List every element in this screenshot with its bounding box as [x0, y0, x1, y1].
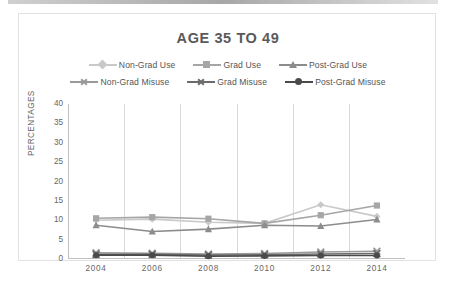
plot-inner	[68, 104, 405, 259]
legend-key-icon	[285, 76, 313, 87]
legend-item-grad-use[interactable]: Grad Use	[193, 59, 261, 70]
chart-legend: Non-Grad UseGrad UsePost-Grad Use Non-Gr…	[19, 56, 437, 90]
series-post-grad-use	[92, 216, 380, 235]
legend-label: Post-Grad Use	[309, 60, 367, 70]
x-tick-label: 2012	[301, 264, 341, 273]
y-tick-label: 5	[41, 236, 63, 244]
chart-title: AGE 35 TO 49	[19, 30, 437, 46]
legend-marker-circle	[295, 78, 302, 85]
data-point	[205, 216, 211, 222]
y-axis-title: PERCENTAGES	[27, 90, 36, 156]
data-point	[149, 214, 155, 220]
y-tick-label: 10	[41, 216, 63, 224]
series-layer	[68, 104, 405, 259]
chart-container: AGE 35 TO 49 Non-Grad UseGrad UsePost-Gr…	[18, 13, 436, 261]
data-point	[93, 215, 99, 221]
series-non-grad-use	[92, 201, 380, 227]
legend-key-icon	[193, 59, 221, 70]
legend-marker-diamond	[97, 60, 107, 70]
data-point	[205, 253, 211, 259]
legend-item-grad-misuse[interactable]: Grad Misuse	[187, 76, 267, 87]
data-point	[262, 253, 268, 259]
legend-label: Grad Misuse	[217, 77, 267, 87]
legend-key-icon	[279, 59, 307, 70]
x-tick-label: 2008	[188, 264, 228, 273]
y-tick-label: 35	[41, 119, 63, 127]
legend-row-use: Non-Grad UseGrad UsePost-Grad Use	[19, 56, 437, 73]
legend-label: Grad Use	[223, 60, 261, 70]
legend-item-non-grad-use[interactable]: Non-Grad Use	[89, 59, 176, 70]
legend-label: Non-Grad Use	[119, 60, 176, 70]
y-tick-label: 30	[41, 139, 63, 147]
legend-marker-x	[80, 78, 87, 85]
legend-key-icon	[70, 76, 98, 87]
x-tick-label: 2006	[132, 264, 172, 273]
y-tick-label: 0	[41, 255, 63, 263]
y-tick-label: 20	[41, 178, 63, 186]
legend-item-post-grad-use[interactable]: Post-Grad Use	[279, 59, 367, 70]
legend-key-icon	[187, 76, 215, 87]
y-tick-label: 40	[41, 100, 63, 108]
scan-artifact	[8, 0, 438, 4]
data-point	[318, 212, 324, 218]
legend-marker-square	[203, 61, 210, 68]
y-tick-label: 15	[41, 197, 63, 205]
legend-item-post-grad-misuse[interactable]: Post-Grad Misuse	[285, 76, 385, 87]
data-point	[93, 252, 99, 258]
legend-marker-x	[197, 78, 204, 85]
data-point	[318, 253, 324, 259]
x-tick-label: 2010	[245, 264, 285, 273]
legend-row-misuse: Non-Grad MisuseGrad MisusePost-Grad Misu…	[19, 73, 437, 90]
x-tick-label: 2014	[357, 264, 397, 273]
legend-key-icon	[89, 59, 117, 70]
series-line	[96, 255, 377, 256]
data-point	[317, 201, 324, 208]
legend-label: Non-Grad Misuse	[100, 77, 169, 87]
data-point	[374, 202, 380, 208]
y-tick-label: 25	[41, 158, 63, 166]
legend-marker-triangle	[289, 61, 297, 68]
data-point	[374, 253, 380, 259]
legend-item-non-grad-misuse[interactable]: Non-Grad Misuse	[70, 76, 169, 87]
x-tick-label: 2004	[76, 264, 116, 273]
legend-label: Post-Grad Misuse	[315, 77, 385, 87]
plot-area: PERCENTAGES 4035302520151050200420062008…	[68, 104, 405, 259]
data-point	[149, 252, 155, 258]
